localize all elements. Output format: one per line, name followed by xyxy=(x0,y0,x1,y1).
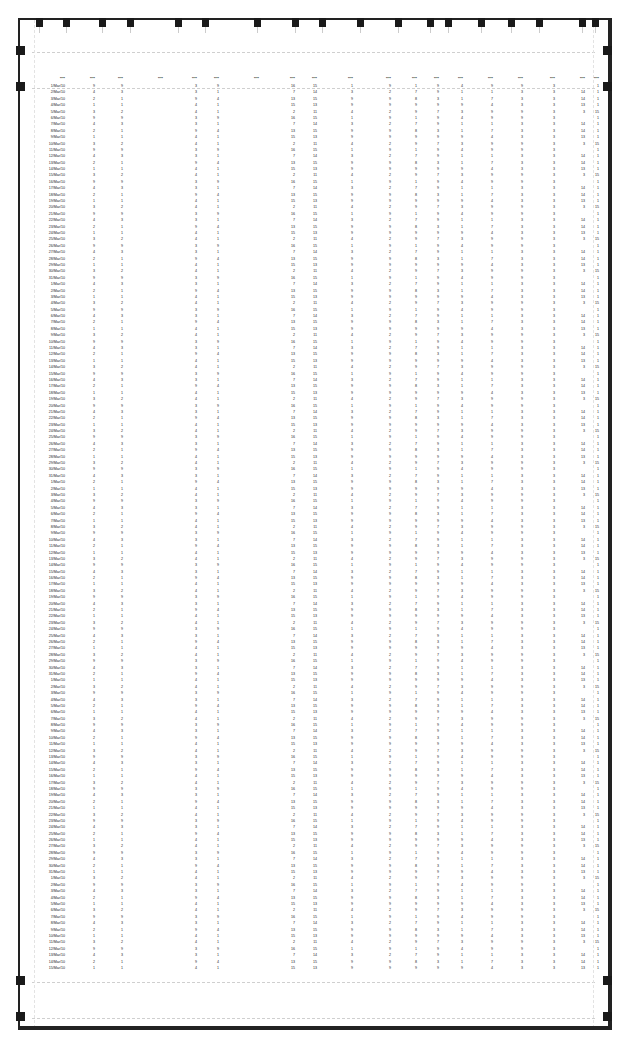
column-guide xyxy=(257,27,258,33)
column-guide xyxy=(582,27,583,33)
value-cell[interactable] xyxy=(124,965,164,971)
column-header[interactable]: ▪▪▪▪ xyxy=(354,76,392,83)
column-width-handle[interactable] xyxy=(36,18,43,27)
column-header[interactable]: ▪▪▪▪ xyxy=(164,76,198,83)
column-width-handle[interactable] xyxy=(445,18,452,27)
column-width-handle[interactable] xyxy=(579,18,586,27)
right-margin-handle[interactable] xyxy=(603,82,612,91)
column-guide xyxy=(481,27,482,33)
right-margin-handle[interactable] xyxy=(603,976,612,985)
column-guide xyxy=(398,27,399,33)
value-cell[interactable]: 3 xyxy=(494,965,524,971)
value-cell[interactable]: 4 xyxy=(164,965,198,971)
top-margin-guide xyxy=(32,52,596,53)
table-body: 1/Mar/10993916151919499312/Mar/104331714… xyxy=(32,83,600,971)
column-width-handle[interactable] xyxy=(592,18,599,27)
column-header[interactable]: ▪▪▪▪ xyxy=(96,76,124,83)
column-header[interactable]: ▪▪▪▪ xyxy=(392,76,418,83)
value-cell[interactable]: 15 xyxy=(260,965,296,971)
column-header[interactable]: ▪▪▪▪ xyxy=(296,76,318,83)
column-header[interactable]: ▪▪▪▪ xyxy=(494,76,524,83)
value-cell[interactable]: 13 xyxy=(556,965,586,971)
right-margin-handle[interactable] xyxy=(603,46,612,55)
column-guide xyxy=(178,27,179,33)
column-header[interactable]: ▪▪▪▪ xyxy=(220,76,260,83)
value-cell[interactable]: 3 xyxy=(524,965,556,971)
column-guide xyxy=(322,27,323,33)
column-width-handle[interactable] xyxy=(127,18,134,27)
value-cell[interactable]: 1 xyxy=(198,965,220,971)
left-margin-handle[interactable] xyxy=(16,82,25,91)
column-guide xyxy=(430,27,431,33)
value-cell[interactable]: 1 xyxy=(96,965,124,971)
column-guide xyxy=(102,27,103,33)
column-header[interactable]: ▪▪▪▪ xyxy=(124,76,164,83)
value-cell[interactable]: 9 xyxy=(418,965,440,971)
column-header[interactable]: ▪▪▪▪ xyxy=(260,76,296,83)
column-width-handle[interactable] xyxy=(427,18,434,27)
column-guide xyxy=(539,27,540,33)
column-header[interactable]: ▪▪▪▪ xyxy=(524,76,556,83)
column-guide xyxy=(130,27,131,33)
column-width-handle[interactable] xyxy=(508,18,515,27)
date-cell[interactable]: 15/Mar/10 xyxy=(32,965,66,971)
value-cell[interactable]: 4 xyxy=(464,965,494,971)
column-header[interactable]: ▪▪▪▪ xyxy=(66,76,96,83)
value-cell[interactable]: 1 xyxy=(66,965,96,971)
column-guide xyxy=(39,27,40,33)
footer-margin-guide xyxy=(32,982,596,983)
value-cell[interactable]: 1 xyxy=(586,965,600,971)
column-width-handle[interactable] xyxy=(478,18,485,27)
column-guide xyxy=(595,27,596,33)
table-header-row: ▪▪▪▪▪▪▪▪▪▪▪▪▪▪▪▪▪▪▪▪▪▪▪▪▪▪▪▪▪▪▪▪▪▪▪▪▪▪▪▪… xyxy=(32,76,600,83)
value-cell[interactable]: 13 xyxy=(296,965,318,971)
left-margin-handle[interactable] xyxy=(16,976,25,985)
column-guide xyxy=(511,27,512,33)
left-margin-handle[interactable] xyxy=(16,46,25,55)
column-width-handle[interactable] xyxy=(357,18,364,27)
column-guide xyxy=(205,27,206,33)
column-width-handle[interactable] xyxy=(202,18,209,27)
column-width-handle[interactable] xyxy=(292,18,299,27)
value-cell[interactable]: 9 xyxy=(440,965,464,971)
column-header[interactable]: ▪▪▪▪ xyxy=(586,76,600,83)
column-header[interactable]: ▪▪▪▪ xyxy=(556,76,586,83)
column-width-handle[interactable] xyxy=(536,18,543,27)
column-width-handle[interactable] xyxy=(63,18,70,27)
column-header[interactable]: ▪▪▪▪ xyxy=(318,76,354,83)
column-guide xyxy=(448,27,449,33)
column-width-handle[interactable] xyxy=(175,18,182,27)
column-width-handle[interactable] xyxy=(254,18,261,27)
value-cell[interactable]: 9 xyxy=(318,965,354,971)
column-width-handle[interactable] xyxy=(319,18,326,27)
value-cell[interactable] xyxy=(220,965,260,971)
bottom-margin-guide xyxy=(32,1018,596,1019)
value-cell[interactable]: 9 xyxy=(354,965,392,971)
column-width-handle[interactable] xyxy=(395,18,402,27)
value-cell[interactable]: 9 xyxy=(392,965,418,971)
left-margin-handle[interactable] xyxy=(16,1012,25,1021)
right-margin-handle[interactable] xyxy=(603,1012,612,1021)
print-preview-page: ▪▪▪▪▪▪▪▪▪▪▪▪▪▪▪▪▪▪▪▪▪▪▪▪▪▪▪▪▪▪▪▪▪▪▪▪▪▪▪▪… xyxy=(18,18,612,1030)
column-header[interactable]: ▪▪▪▪ xyxy=(440,76,464,83)
column-guide xyxy=(295,27,296,33)
column-header[interactable]: ▪▪▪▪ xyxy=(198,76,220,83)
column-guide xyxy=(66,27,67,33)
column-header[interactable]: ▪▪▪▪ xyxy=(418,76,440,83)
column-width-handle[interactable] xyxy=(99,18,106,27)
column-header[interactable]: ▪▪▪▪ xyxy=(464,76,494,83)
column-header[interactable]: ▪▪▪▪ xyxy=(32,76,66,83)
column-guide xyxy=(360,27,361,33)
table-row: 15/Mar/101141151399999433131 xyxy=(32,965,600,971)
spreadsheet-table: ▪▪▪▪▪▪▪▪▪▪▪▪▪▪▪▪▪▪▪▪▪▪▪▪▪▪▪▪▪▪▪▪▪▪▪▪▪▪▪▪… xyxy=(32,76,600,971)
